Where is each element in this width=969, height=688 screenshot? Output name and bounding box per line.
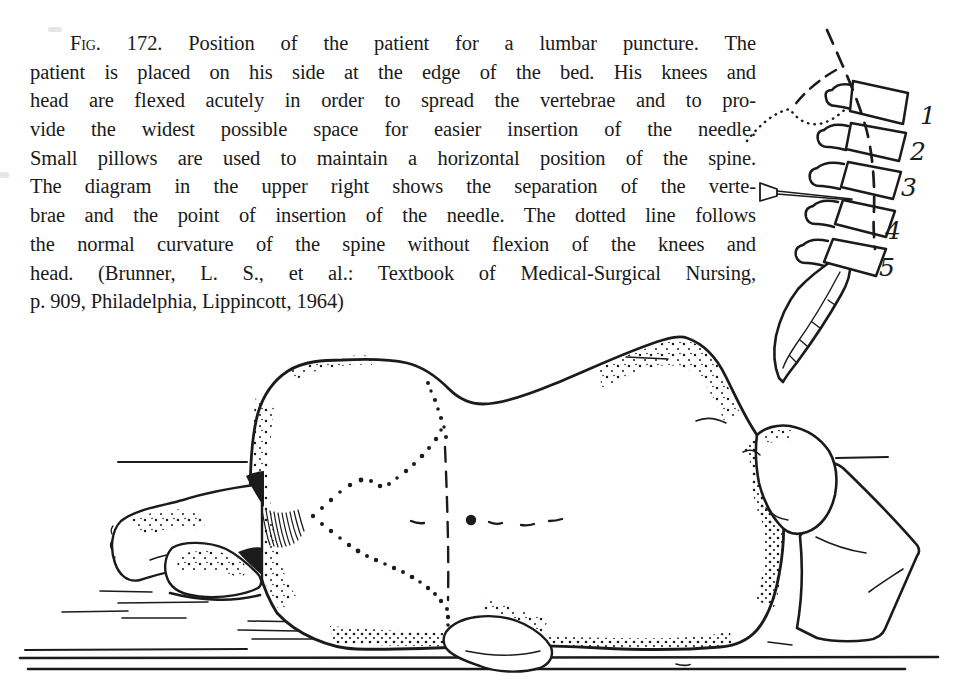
toe-crease: [111, 526, 113, 534]
vertebrae: [796, 81, 908, 276]
torso: [250, 337, 783, 649]
book-page: Fig. 172. Position of the patient for a …: [0, 0, 969, 688]
vertebra-label-4: 4: [884, 216, 901, 245]
spinous-process-4: [806, 201, 838, 227]
vertebra-label-2: 2: [909, 137, 926, 166]
vertebra-body-3: [841, 162, 901, 199]
spinous-process-2: [818, 125, 848, 150]
sacrum: [774, 258, 850, 382]
spinous-process-1: [826, 84, 852, 109]
vertebra-label-3: 3: [901, 173, 917, 202]
puncture-site-dot: [466, 515, 476, 525]
spine-diagram: 1 2 3 4 5: [747, 30, 936, 382]
spinous-process-3: [810, 163, 844, 189]
vertebra-label-5: 5: [879, 253, 895, 282]
feet: [111, 471, 265, 600]
vertebra-label-1: 1: [920, 101, 936, 130]
patient-illustration: [20, 337, 938, 672]
vertebra-body-2: [846, 123, 906, 161]
needle-hub: [760, 183, 777, 201]
figure-artwork: 1 2 3 4 5: [0, 0, 969, 688]
